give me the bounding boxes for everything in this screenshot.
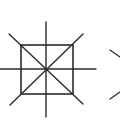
center-dot xyxy=(44,67,47,70)
square-star-figure xyxy=(0,22,96,117)
partial-chevron-figure xyxy=(110,50,120,99)
chevron-lower-stroke xyxy=(110,92,120,99)
chevron-upper-stroke xyxy=(110,50,120,57)
diagram-canvas xyxy=(0,0,120,134)
